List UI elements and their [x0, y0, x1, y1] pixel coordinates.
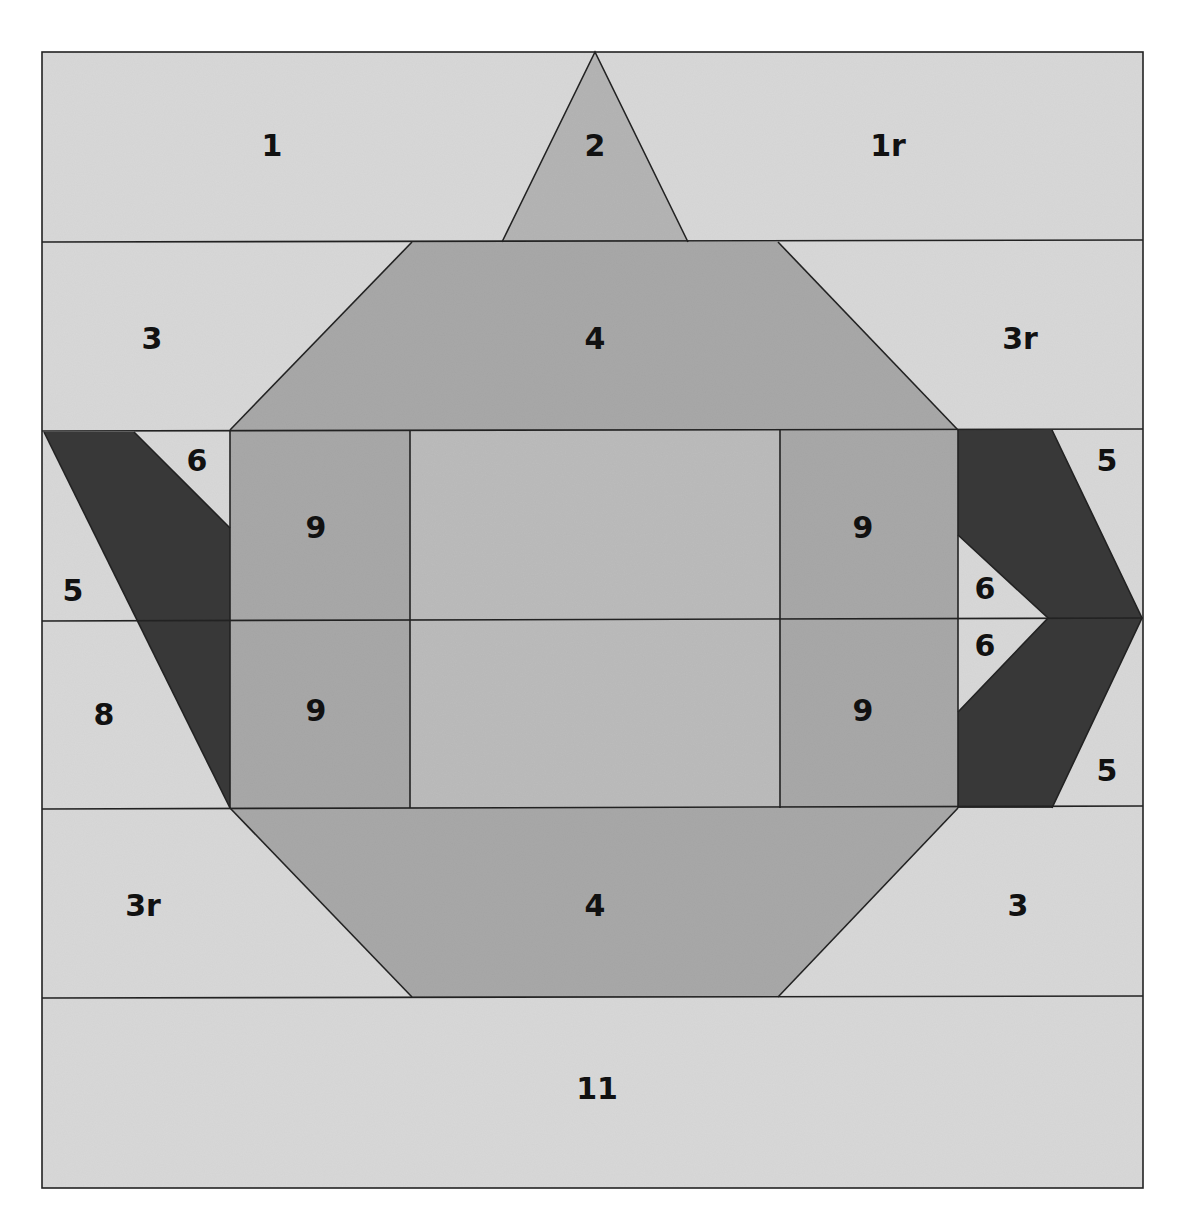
label-piece-3r-top: 3r: [1002, 321, 1038, 356]
label-piece-3r-bottom: 3r: [125, 888, 161, 923]
label-piece-9-lower-left: 9: [306, 693, 327, 728]
pot-center-upper: [410, 430, 780, 620]
label-piece-11: 11: [576, 1071, 618, 1106]
teapot-quilt-block-diagram: 1 2 1r 3 4 3r 6 5 8 9 9 9 9 5 6 6 5 3r 4…: [0, 0, 1182, 1221]
label-piece-3-top: 3: [142, 321, 163, 356]
label-piece-8-left: 8: [94, 697, 115, 732]
label-piece-3-bottom: 3: [1008, 888, 1029, 923]
label-piece-6-right-bottom: 6: [975, 628, 996, 663]
label-piece-1: 1: [262, 128, 283, 163]
label-piece-9-lower-right: 9: [853, 693, 874, 728]
label-piece-4-bottom: 4: [585, 888, 606, 923]
label-piece-2: 2: [585, 128, 606, 163]
label-piece-5-right-top: 5: [1097, 443, 1118, 478]
label-piece-1r: 1r: [870, 128, 906, 163]
label-piece-5-left: 5: [63, 573, 84, 608]
label-piece-6-right-top: 6: [975, 571, 996, 606]
label-piece-5-right-bottom: 5: [1097, 753, 1118, 788]
pot-center-lower: [410, 620, 780, 808]
label-piece-6-left: 6: [187, 443, 208, 478]
label-piece-9-upper-right: 9: [853, 510, 874, 545]
label-piece-4-top: 4: [585, 321, 606, 356]
label-piece-9-upper-left: 9: [306, 510, 327, 545]
